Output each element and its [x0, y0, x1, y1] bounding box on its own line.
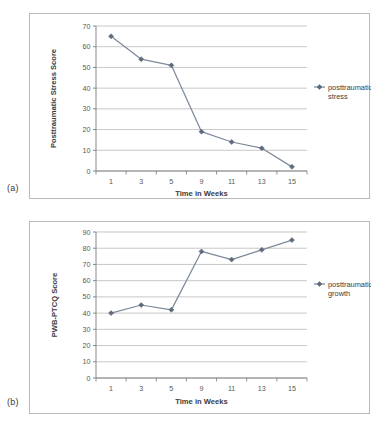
- legend-label-line2: growth: [328, 289, 350, 298]
- y-tick-label: 40: [83, 309, 91, 318]
- x-axis-ticks-group: 1359111315: [96, 378, 307, 393]
- y-tick-label: 0: [87, 167, 91, 176]
- x-tick-label: 15: [288, 177, 296, 186]
- y-tick-label: 50: [83, 63, 91, 72]
- x-tick-label: 3: [139, 384, 143, 393]
- y-axis-ticks-group: 010203040506070: [83, 22, 97, 176]
- chart-a: 0102030405060701359111315Posttraumatic S…: [30, 14, 369, 198]
- y-tick-label: 60: [83, 276, 91, 285]
- data-point-marker[interactable]: [229, 257, 234, 262]
- panel-b-label: (b): [7, 397, 19, 407]
- x-tick-label: 1: [109, 384, 113, 393]
- y-tick-label: 30: [83, 104, 91, 113]
- y-tick-label: 60: [83, 42, 91, 51]
- panel-a-label: (a): [7, 183, 19, 193]
- chart-panel-a: 0102030405060701359111315Posttraumatic S…: [29, 13, 370, 199]
- chart-panel-b: 01020304050607080901359111315PWB-PTCQ Sc…: [29, 221, 370, 414]
- y-tick-label: 90: [83, 228, 91, 237]
- x-tick-label: 5: [169, 177, 173, 186]
- y-tick-label: 20: [83, 125, 91, 134]
- y-axis-title: PWB-PTCQ Score: [50, 273, 59, 338]
- x-tick-label: 15: [288, 384, 296, 393]
- y-axis-title: Posttraumatic Stress Score: [49, 49, 58, 148]
- x-tick-label: 5: [169, 384, 173, 393]
- chart-b: 01020304050607080901359111315PWB-PTCQ Sc…: [30, 222, 369, 413]
- x-tick-label: 1: [109, 177, 113, 186]
- gridlines-group: [96, 26, 307, 171]
- y-tick-label: 80: [83, 244, 91, 253]
- data-point-marker[interactable]: [139, 303, 144, 308]
- data-markers-group: [109, 238, 295, 316]
- x-tick-label: 11: [228, 177, 235, 186]
- y-tick-label: 40: [83, 84, 91, 93]
- y-tick-label: 10: [83, 357, 91, 366]
- data-point-marker[interactable]: [229, 140, 234, 145]
- chart-a-canvas: 0102030405060701359111315Posttraumatic S…: [30, 14, 371, 200]
- legend-label-line1: posttraumatic: [328, 280, 371, 289]
- y-tick-label: 30: [83, 325, 91, 334]
- y-tick-label: 10: [83, 146, 91, 155]
- legend-group[interactable]: posttraumaticstress: [314, 83, 371, 101]
- y-tick-label: 0: [87, 374, 91, 383]
- data-point-marker[interactable]: [289, 238, 294, 243]
- data-point-marker[interactable]: [109, 311, 114, 316]
- x-axis-title: Time in Weeks: [175, 189, 227, 198]
- figure-container: 0102030405060701359111315Posttraumatic S…: [0, 0, 378, 428]
- x-tick-label: 3: [139, 177, 143, 186]
- data-line: [111, 36, 292, 167]
- x-axis-ticks-group: 1359111315: [96, 171, 307, 186]
- x-tick-label: 9: [200, 384, 204, 393]
- y-tick-label: 70: [83, 260, 91, 269]
- chart-b-canvas: 01020304050607080901359111315PWB-PTCQ Sc…: [30, 222, 371, 415]
- y-axis-ticks-group: 0102030405060708090: [83, 228, 97, 383]
- legend-marker-swatch: [317, 282, 322, 287]
- x-tick-label: 9: [200, 177, 204, 186]
- legend-label-line2: stress: [328, 92, 348, 101]
- x-tick-label: 13: [258, 177, 266, 186]
- data-markers-group: [109, 34, 295, 170]
- data-point-marker[interactable]: [199, 249, 204, 254]
- legend-marker-swatch: [317, 85, 322, 90]
- legend-label-line1: posttraumatic: [328, 83, 371, 92]
- x-tick-label: 11: [228, 384, 235, 393]
- x-axis-title: Time in Weeks: [175, 397, 227, 406]
- y-tick-label: 20: [83, 341, 91, 350]
- legend-group[interactable]: posttraumaticgrowth: [314, 280, 371, 298]
- data-point-marker[interactable]: [169, 307, 174, 312]
- y-tick-label: 50: [83, 292, 91, 301]
- y-tick-label: 70: [83, 22, 91, 31]
- x-tick-label: 13: [258, 384, 266, 393]
